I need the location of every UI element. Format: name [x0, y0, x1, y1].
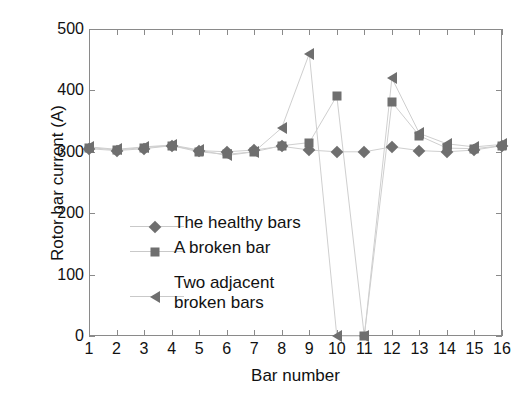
legend: The healthy bars A broken bar Two adjace…: [128, 211, 343, 323]
diamond-icon: [149, 221, 162, 234]
legend-label-two-adjacent-line2: broken bars: [174, 293, 264, 313]
legend-label-healthy: The healthy bars: [174, 213, 301, 233]
square-icon: [151, 248, 160, 257]
series-lines: [0, 0, 530, 405]
legend-label-two-adjacent: Two adjacent: [174, 273, 274, 293]
chart-figure: 12345678910111213141516 0100200300400500…: [0, 0, 530, 405]
left-triangle-icon: [150, 291, 160, 303]
legend-label-broken: A broken bar: [174, 238, 270, 258]
